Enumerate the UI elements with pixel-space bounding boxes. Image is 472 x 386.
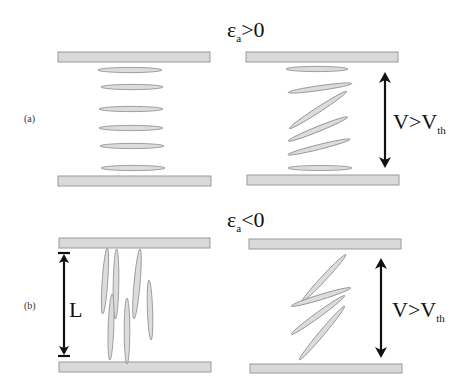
- top-electrode-plate: [246, 52, 398, 62]
- cell-b-on: V>Vth: [249, 239, 445, 373]
- liquid-crystal-diagram: εa>0 (a): [0, 0, 472, 386]
- top-electrode-plate: [58, 52, 210, 62]
- lc-molecule: [124, 298, 130, 364]
- bottom-electrode-plate: [247, 175, 399, 185]
- lc-molecule: [131, 249, 143, 319]
- panel-b-tag: (b): [24, 300, 36, 312]
- top-electrode-plate: [249, 239, 401, 249]
- lc-molecule: [146, 280, 153, 340]
- cell-a-off: [58, 52, 211, 186]
- bottom-electrode-plate: [59, 362, 211, 372]
- bottom-electrode-plate: [250, 364, 402, 373]
- lc-molecule: [287, 115, 348, 144]
- panel-b-title: εa<0: [227, 207, 265, 234]
- lc-molecule: [101, 84, 163, 89]
- lc-molecule: [98, 67, 162, 72]
- voltage-label: V>Vth: [392, 297, 445, 324]
- lc-molecule: [286, 66, 348, 71]
- panel-a-title: εa>0: [227, 17, 265, 44]
- lc-molecule: [100, 143, 164, 148]
- cell-a-on: V>Vth: [246, 52, 446, 185]
- lc-molecule: [288, 166, 352, 171]
- voltage-label: V>Vth: [393, 109, 446, 136]
- lc-molecule: [99, 106, 163, 111]
- panel-a: εa>0 (a): [24, 17, 446, 186]
- lc-molecule: [288, 89, 348, 130]
- voltage-double-arrow: [375, 258, 387, 358]
- voltage-double-arrow: [379, 72, 391, 168]
- cell-b-off: L: [58, 238, 211, 372]
- lc-molecule: [99, 125, 163, 130]
- thickness-label: L: [69, 297, 82, 322]
- bottom-electrode-plate: [58, 176, 211, 186]
- top-electrode-plate: [59, 238, 210, 248]
- lc-molecule: [107, 294, 115, 360]
- panel-a-tag: (a): [24, 113, 35, 125]
- lc-molecule: [101, 165, 165, 170]
- lc-molecule: [100, 248, 110, 314]
- panel-b: εa<0 (b) L: [24, 207, 445, 373]
